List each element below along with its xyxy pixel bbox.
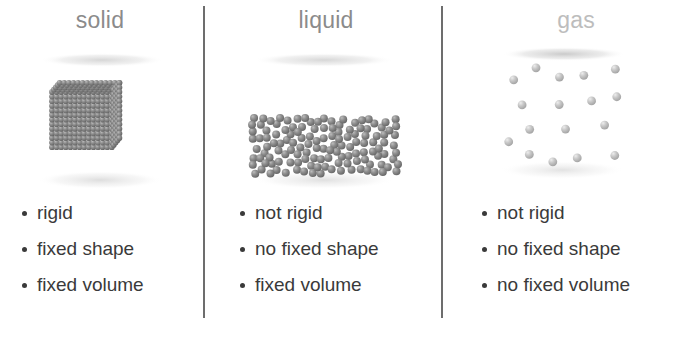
list-item: not rigid — [482, 198, 630, 234]
vessel-shadow-solid — [38, 171, 162, 189]
list-item: no fixed shape — [240, 234, 379, 270]
vessel-rim-gas — [502, 47, 626, 61]
heading-gas: gas — [452, 7, 700, 33]
bullet-list-solid: rigid fixed shape fixed volume — [22, 198, 144, 306]
vessel-solid — [0, 40, 200, 192]
list-item: no fixed shape — [482, 234, 630, 270]
bullet-text: no fixed shape — [497, 238, 621, 259]
column-gas: gas — [452, 0, 700, 338]
bullet-list-liquid: not rigid no fixed shape fixed volume — [240, 198, 379, 306]
heading-liquid: liquid — [212, 7, 440, 33]
liquid-particles — [248, 114, 402, 178]
bullet-dot-icon — [22, 283, 27, 288]
bullet-text: fixed volume — [255, 274, 362, 295]
vessel-rim-liquid — [254, 53, 394, 67]
vessel-gas — [452, 40, 700, 192]
column-divider-1 — [203, 6, 205, 318]
heading-solid: solid — [0, 7, 200, 33]
vessel-rim-solid — [40, 53, 164, 67]
bullet-dot-icon — [482, 211, 487, 216]
bullet-text: no fixed shape — [255, 238, 379, 259]
states-of-matter-diagram: solid — [0, 0, 700, 338]
solid-particles — [49, 80, 122, 150]
vessel-liquid — [212, 40, 440, 192]
bullet-list-gas: not rigid no fixed shape no fixed volume — [482, 198, 630, 306]
bullet-dot-icon — [240, 283, 245, 288]
bullet-dot-icon — [240, 211, 245, 216]
bullet-text: not rigid — [255, 202, 323, 223]
bullet-text: fixed shape — [37, 238, 134, 259]
bullet-dot-icon — [482, 247, 487, 252]
list-item: not rigid — [240, 198, 379, 234]
gas-particles — [504, 63, 621, 166]
bullet-text: not rigid — [497, 202, 565, 223]
column-solid: solid — [0, 0, 200, 338]
bullet-text: fixed volume — [37, 274, 144, 295]
bullet-dot-icon — [240, 247, 245, 252]
list-item: rigid — [22, 198, 144, 234]
list-item: fixed shape — [22, 234, 144, 270]
column-liquid: liquid — [212, 0, 440, 338]
vessel-shadow-gas — [500, 161, 624, 179]
list-item: fixed volume — [240, 270, 379, 306]
list-item: fixed volume — [22, 270, 144, 306]
bullet-text: no fixed volume — [497, 274, 630, 295]
bullet-text: rigid — [37, 202, 73, 223]
bullet-dot-icon — [482, 283, 487, 288]
bullet-dot-icon — [22, 211, 27, 216]
list-item: no fixed volume — [482, 270, 630, 306]
column-divider-2 — [441, 6, 443, 318]
bullet-dot-icon — [22, 247, 27, 252]
